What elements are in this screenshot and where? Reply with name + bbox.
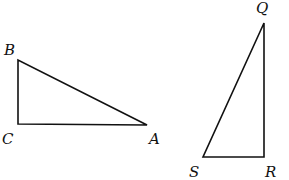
vertex-label-q: Q bbox=[256, 0, 268, 17]
vertex-label-b: B bbox=[3, 41, 15, 59]
vertex-label-c: C bbox=[2, 130, 14, 148]
triangle-abc bbox=[18, 60, 147, 125]
vertex-label-r: R bbox=[264, 163, 276, 180]
vertex-label-a: A bbox=[147, 130, 160, 148]
triangles-diagram: A B C Q R S bbox=[0, 0, 289, 180]
vertex-label-s: S bbox=[189, 163, 199, 180]
triangle-qrs bbox=[203, 23, 264, 157]
